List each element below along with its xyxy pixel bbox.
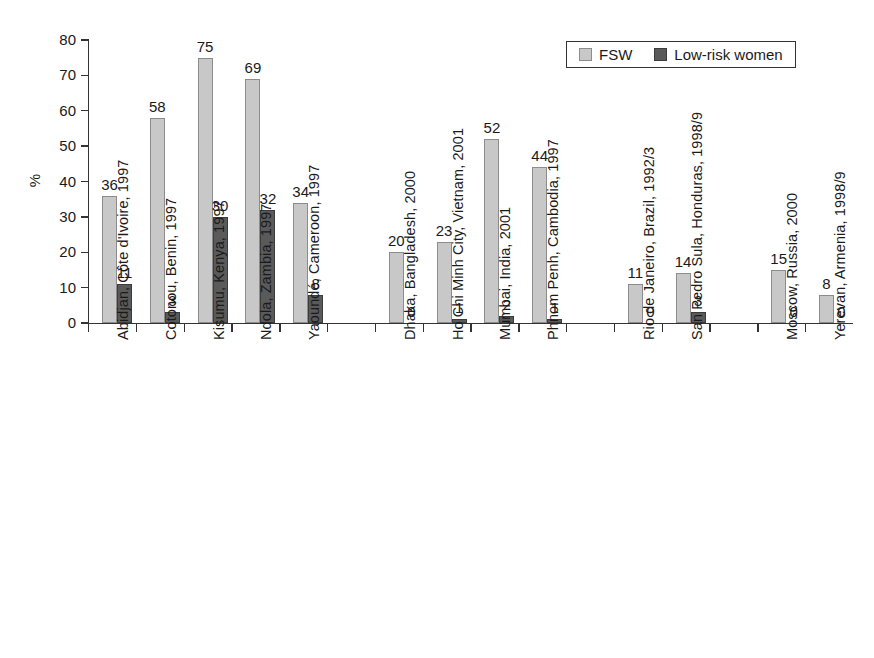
bar-value-label-fsw: 69	[233, 60, 272, 75]
x-axis-category-label: Ndola, Zambia, 1997	[259, 203, 274, 340]
x-axis-tick	[136, 324, 137, 332]
x-axis-tick	[757, 324, 758, 332]
x-axis-category-label: Rio de Janeiro, Brazil, 1992/3	[642, 147, 657, 340]
x-axis-category-label: Ho Chi Minh City, Vietnam, 2001	[451, 128, 466, 340]
legend-label: FSW	[599, 47, 632, 62]
chart-legend: FSWLow-risk women	[566, 41, 796, 68]
x-axis-tick	[423, 324, 424, 332]
x-axis-tick	[566, 324, 567, 332]
legend-swatch-icon	[654, 48, 667, 61]
bar-value-label-fsw: 58	[138, 99, 177, 114]
legend-entry: Low-risk women	[654, 47, 782, 62]
x-axis-category-label: Moscow, Russia, 2000	[785, 193, 800, 340]
x-axis-tick	[375, 324, 376, 332]
x-axis-category-label: Yaoundé, Cameroon, 1997	[307, 165, 322, 340]
x-axis-category-label: Phnom Penh, Cambodia, 1997	[546, 139, 561, 340]
x-axis-category-label: Cotonou, Benin, 1997	[164, 198, 179, 340]
x-axis-tick	[662, 324, 663, 332]
x-axis-category-label: Abidjan, Côte d'Ivoire, 1997	[116, 160, 131, 341]
bar-value-label-fsw: 75	[186, 39, 225, 54]
x-axis-tick	[470, 324, 471, 332]
x-axis-tick	[279, 324, 280, 332]
x-axis-tick	[88, 324, 89, 332]
legend-entry: FSW	[579, 47, 632, 62]
x-axis-tick	[518, 324, 519, 332]
x-axis-tick	[327, 324, 328, 332]
bar-chart: % 01020304050607080 36115837530693234820…	[0, 0, 874, 658]
x-axis-category-label: Dhaka, Bangladesh, 2000	[403, 171, 418, 340]
x-axis-tick	[231, 324, 232, 332]
bar-value-label-fsw: 52	[472, 120, 511, 135]
x-axis-tick	[805, 324, 806, 332]
x-axis-category-label: San Pedro Sula, Honduras, 1998/9	[690, 112, 705, 340]
legend-label: Low-risk women	[674, 47, 782, 62]
x-axis-category-label: Kisumu, Kenya, 1997	[212, 200, 227, 340]
legend-swatch-icon	[579, 48, 592, 61]
x-axis-tick	[184, 324, 185, 332]
x-axis-tick	[709, 324, 710, 332]
x-axis-tick	[614, 324, 615, 332]
x-axis-category-label: Mumbai, India, 2001	[498, 207, 513, 340]
x-axis-category-label: Yerevan, Armenia, 1998/9	[833, 171, 848, 340]
